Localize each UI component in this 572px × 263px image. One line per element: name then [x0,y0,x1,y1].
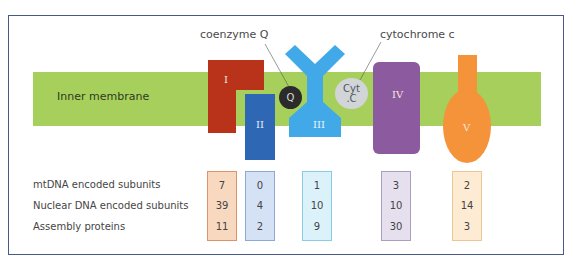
coenzyme-q-callout: coenzyme Q [200,28,268,41]
cyt-c-label-line1: Cyt [343,84,360,94]
value-cell: 14 [461,200,474,211]
cyt-c-label-line2: .C [346,94,356,104]
value-cell: 9 [314,221,320,232]
complex-ii-label: II [256,119,264,130]
row-label-assembly: Assembly proteins [33,221,125,232]
cytochrome-c-circle: Cyt .C [335,78,368,109]
value-cell: 3 [464,221,470,232]
value-cell: 30 [390,221,403,232]
cytochrome-c-callout: cytochrome c [380,28,455,41]
row-label-mtdna: mtDNA encoded subunits [33,179,160,190]
complex-v-label: V [463,122,470,133]
value-cell: 10 [311,200,324,211]
value-cell: 2 [464,180,470,191]
complex-iii-values: 1 10 9 [302,171,332,241]
complex-v-values: 2 14 3 [452,171,482,241]
value-cell: 1 [314,180,320,191]
complex-i-label: I [224,74,228,85]
complex-iii-label: III [313,119,325,130]
value-cell: 2 [257,221,263,232]
complex-iv-values: 3 10 30 [381,171,411,241]
value-cell: 0 [257,180,263,191]
value-cell: 3 [393,180,399,191]
complex-iv [373,62,420,154]
complex-i-values: 7 39 11 [207,171,237,241]
row-label-nuclear-dna: Nuclear DNA encoded subunits [33,200,188,211]
value-cell: 10 [390,200,403,211]
value-cell: 39 [216,200,229,211]
value-cell: 11 [216,221,229,232]
complex-i-lower [208,60,236,133]
complex-iv-label: IV [392,89,403,100]
complex-ii-values: 0 4 2 [245,171,275,241]
value-cell: 7 [219,180,225,191]
value-cell: 4 [257,200,263,211]
